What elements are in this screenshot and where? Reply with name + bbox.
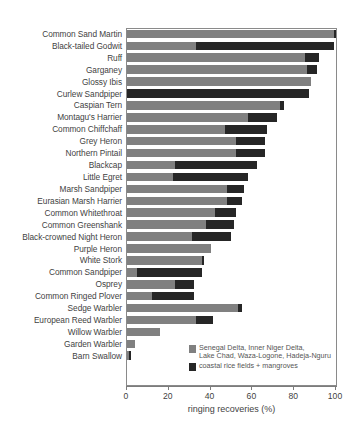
bar-segment [127,53,305,62]
x-axis-tick-label: 20 [163,391,173,401]
bar-segment [127,328,160,337]
bar-row-label: Common Sand Martin [42,29,122,38]
bar-track [127,173,336,182]
x-axis-tick-label: 80 [288,391,298,401]
legend-swatch [189,363,196,371]
bar-row-label: Montagu's Harrier [57,113,122,122]
bar-track [127,65,336,74]
bar-row-label: Caspian Tern [74,101,122,110]
x-axis-tick-label: 40 [205,391,215,401]
bar-segment [127,185,227,194]
bar-row-label: Osprey [96,280,122,289]
bar-row: Black-crowned Night Heron [0,231,354,243]
bar-segment [127,220,206,229]
bar-segment [236,149,265,158]
bar-segment [227,185,244,194]
bar-segment [127,137,236,146]
bar-track [127,125,336,134]
bar-segment [127,256,202,265]
bar-row: Ruff [0,52,354,64]
bar-segment [127,197,227,206]
bar-row-label: Common Whitethroat [45,208,123,217]
bar-segment [248,113,277,122]
bar-segment [280,101,284,110]
bar-track [127,77,336,86]
bar-segment [127,292,152,301]
legend-label: Senegal Delta, Inner Niger Delta, Lake C… [199,344,331,361]
bar-row-label: White Stork [80,256,122,265]
bar-row-label: Garganey [86,65,122,74]
bar-row: Curlew Sandpiper [0,88,354,100]
bar-track [127,197,336,206]
bar-row-label: Common Chiffchaff [52,125,122,134]
bar-row: Common Sandpiper [0,266,354,278]
bar-row-label: Black-tailed Godwit [52,41,122,50]
bar-segment [127,113,248,122]
bar-track [127,42,336,51]
bar-segment [127,316,196,325]
bar-segment [307,65,317,74]
bar-segment [215,208,236,217]
x-axis-tick [210,386,211,390]
bar-row: European Reed Warbler [0,314,354,326]
bar-row-label: Northern Pintail [66,149,122,158]
bar-segment [202,256,204,265]
bar-segment [152,292,194,301]
bar-row-label: Common Ringed Plover [35,292,122,301]
bar-row: Blackcap [0,159,354,171]
bar-segment [129,351,131,360]
x-axis-tick [168,386,169,390]
bar-track [127,220,336,229]
bar-row: Osprey [0,278,354,290]
bar-segment [238,304,242,313]
bar-row-label: Grey Heron [80,137,122,146]
bar-row: White Stork [0,255,354,267]
bar-row-label: Curlew Sandpiper [57,89,122,98]
bar-segment [127,268,137,277]
bar-row-label: Garden Warbler [64,339,122,348]
bar-segment [227,197,242,206]
bar-track [127,30,336,39]
bar-row-label: Glossy Ibis [82,77,122,86]
bar-row: Montagu's Harrier [0,111,354,123]
bar-segment [127,125,225,134]
bar-row: Northern Pintail [0,147,354,159]
bar-row: Willow Warbler [0,326,354,338]
x-axis-tick-label: 100 [328,391,342,401]
x-axis-tick-label: 60 [247,391,257,401]
bar-segment [334,30,336,39]
bar-row: Marsh Sandpiper [0,183,354,195]
bar-segment [196,42,334,51]
x-axis-label: ringing recoveries (%) [126,404,337,414]
bar-segment [127,173,173,182]
bar-track [127,244,336,253]
bar-segment [192,232,232,241]
bar-track [127,316,336,325]
bar-row: Common Greenshank [0,219,354,231]
bar-track [127,149,336,158]
legend-item: coastal rice fields + mangroves [189,362,339,371]
bar-row-label: Willow Warbler [68,328,122,337]
legend-swatch [189,345,196,353]
bar-row-label: Little Egret [83,173,122,182]
bar-row: Common Chiffchaff [0,123,354,135]
bar-track [127,232,336,241]
bar-row-label: European Reed Warbler [34,316,122,325]
bar-segment [175,161,257,170]
x-axis-line [126,386,337,387]
bar-row-label: Blackcap [89,161,122,170]
x-axis-tick [126,386,127,390]
bar-segment [127,89,309,98]
bar-row-label: Common Greenshank [42,220,122,229]
bar-row: Common Sand Martin [0,28,354,40]
bar-track [127,89,336,98]
bar-track [127,137,336,146]
bar-track [127,268,336,277]
bar-row-label: Purple Heron [74,244,122,253]
bar-row: Common Ringed Plover [0,290,354,302]
bar-segment [127,30,334,39]
bar-row: Little Egret [0,171,354,183]
bar-segment [236,137,265,146]
bar-segment [127,101,280,110]
legend-label: coastal rice fields + mangroves [199,362,298,370]
